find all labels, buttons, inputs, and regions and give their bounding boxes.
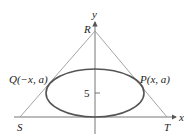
point-q-label: Q(−x, a) — [9, 73, 48, 86]
point-p-label: P(x, a) — [139, 73, 170, 86]
point-s-label: S — [17, 121, 23, 133]
y-tick-label-5: 5 — [84, 87, 90, 99]
x-axis-label: x — [178, 111, 184, 123]
point-r-label: R — [83, 23, 91, 35]
y-axis-label: y — [91, 8, 97, 20]
diagram-canvas: y x R S T Q(−x, a) P(x, a) 5 — [0, 0, 193, 140]
point-t-label: T — [164, 121, 171, 133]
